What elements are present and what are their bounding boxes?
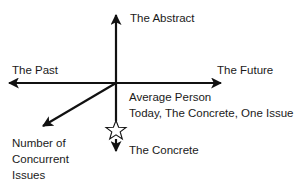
- label-the-past: The Past: [12, 63, 58, 77]
- label-concurrent-line-1: Number of: [12, 135, 69, 151]
- concurrent-issues-axis-arrow: [43, 83, 116, 126]
- label-average-person-line-1: Average Person: [129, 89, 294, 105]
- label-the-future: The Future: [217, 63, 273, 77]
- label-concurrent-line-3: Issues: [12, 167, 69, 183]
- label-average-person: Average Person Today, The Concrete, One …: [129, 89, 294, 121]
- label-concurrent-line-2: Concurrent: [12, 151, 69, 167]
- star-icon: [106, 121, 126, 140]
- label-average-person-line-2: Today, The Concrete, One Issue: [129, 105, 294, 121]
- label-the-abstract: The Abstract: [130, 11, 195, 25]
- label-the-concrete: The Concrete: [129, 143, 199, 157]
- label-number-of-concurrent-issues: Number of Concurrent Issues: [12, 135, 69, 183]
